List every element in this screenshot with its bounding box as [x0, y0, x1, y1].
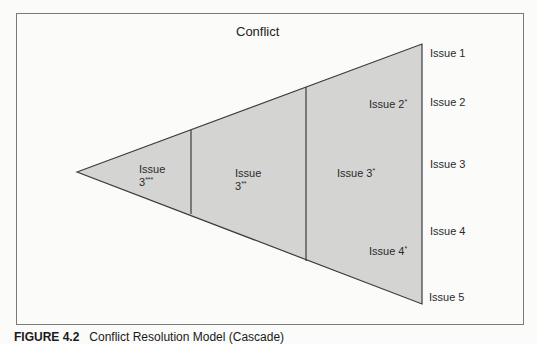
- section-label: Issue 2: [369, 98, 404, 110]
- right-label-issue-3: Issue 3: [430, 158, 465, 171]
- section-issue-3-triple: Issue 3***: [139, 163, 165, 189]
- right-label-issue-4: Issue 4: [430, 225, 465, 238]
- right-label-issue-5: Issue 5: [429, 291, 464, 304]
- section-label: Issue 4: [369, 245, 404, 257]
- section-mark: ***: [145, 176, 153, 183]
- section-mark: *: [404, 98, 407, 105]
- figure-number: FIGURE 4.2: [14, 330, 79, 344]
- right-label-issue-2: Issue 2: [430, 96, 465, 109]
- section-label: Issue 3: [337, 167, 372, 179]
- figure-caption-text: Conflict Resolution Model (Cascade): [89, 330, 284, 344]
- section-issue-3-double: Issue 3**: [235, 167, 261, 193]
- section-issue-3-single: Issue 3*: [337, 167, 375, 180]
- section-mark: **: [241, 180, 246, 187]
- section-label: Issue: [139, 163, 165, 175]
- diagram-title: Conflict: [236, 25, 279, 38]
- figure-caption: FIGURE 4.2Conflict Resolution Model (Cas…: [14, 330, 284, 344]
- section-label: Issue: [235, 167, 261, 179]
- section-issue-4: Issue 4*: [369, 245, 407, 258]
- section-mark: *: [404, 245, 407, 252]
- section-issue-2: Issue 2*: [369, 98, 407, 111]
- right-label-issue-1: Issue 1: [430, 47, 465, 60]
- section-mark: *: [372, 167, 375, 174]
